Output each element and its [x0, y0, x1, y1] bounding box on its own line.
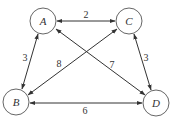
node-d-label: D	[151, 97, 160, 109]
edge-c-d: 3	[134, 34, 151, 90]
node-a-label: A	[39, 15, 47, 27]
edge-b-d: 6	[30, 103, 142, 116]
node-c-label: C	[125, 15, 133, 27]
node-c: C	[116, 8, 142, 34]
edge-a-b: 3	[22, 34, 38, 89]
edge-c-b-weight: 8	[57, 58, 62, 69]
edge-a-c-weight: 2	[84, 9, 89, 20]
node-b-label: B	[13, 96, 20, 108]
node-d: D	[143, 90, 169, 116]
edge-a-d: 7	[56, 29, 145, 95]
edge-a-c: 2	[57, 9, 115, 22]
node-b: B	[3, 89, 29, 115]
edge-c-b-line	[28, 29, 117, 95]
edge-b-d-weight: 6	[83, 105, 88, 116]
edge-c-b: 8	[28, 29, 117, 95]
edge-a-d-weight: 7	[110, 59, 115, 70]
edge-a-b-weight: 3	[23, 52, 28, 63]
node-a: A	[30, 8, 56, 34]
graph-diagram: 2 3 8 7 3 6 A C	[0, 0, 175, 123]
edge-c-d-weight: 3	[144, 52, 149, 63]
edge-a-d-line	[56, 29, 145, 95]
